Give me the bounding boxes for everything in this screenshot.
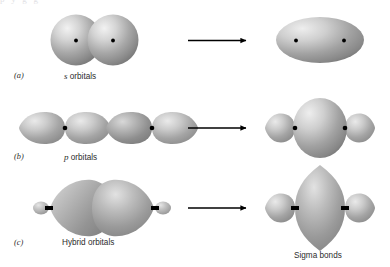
p-lobe-inner-left xyxy=(65,112,111,144)
nucleus-dot xyxy=(291,206,299,210)
caption-hybrid-orbitals-text: Hybrid orbitals xyxy=(62,238,114,247)
hybrid-merged-sigma-lens xyxy=(295,165,345,251)
nucleus-dot xyxy=(111,39,115,43)
merged-sigma-ellipse xyxy=(276,17,364,63)
hybrid-orbital-pair-left xyxy=(33,180,171,236)
row-b-graphics xyxy=(19,98,375,158)
row-label-c: (c) xyxy=(14,238,23,247)
nucleus-dot xyxy=(342,39,346,43)
p-merged-sigma-ellipse xyxy=(293,98,347,158)
row-label-a: (a) xyxy=(14,71,24,80)
caption-s-orbitals-rest: orbitals xyxy=(68,72,97,81)
nucleus-dot xyxy=(150,126,155,131)
nucleus-dot xyxy=(293,126,298,131)
nucleus-dot xyxy=(45,206,53,210)
s-orbital-pair-left xyxy=(51,15,139,66)
p-lobe-inner-right xyxy=(106,112,152,144)
hybrid-small-lobe-right xyxy=(345,194,375,223)
row-a-graphics xyxy=(51,15,365,66)
p-small-lobe-left xyxy=(265,114,295,143)
caption-p-orbitals-rest: orbitals xyxy=(69,153,98,162)
orbital-graphics-canvas xyxy=(0,0,390,267)
p-sigma-bond-right xyxy=(265,98,375,158)
hybrid-lobe-right xyxy=(92,180,154,236)
nucleus-dot xyxy=(294,39,298,43)
p-lobe-outer-left xyxy=(19,112,65,144)
nucleus-dot xyxy=(151,206,159,210)
nucleus-dot xyxy=(63,126,68,131)
hybrid-small-lobe-left xyxy=(265,194,295,223)
p-small-lobe-right xyxy=(345,114,375,143)
hybrid-sigma-bond-right xyxy=(265,165,375,251)
p-orbital-chain-left xyxy=(19,112,198,144)
label-sigma-bonds: Sigma bonds xyxy=(294,251,342,260)
caption-s-orbitals: s orbitals xyxy=(64,71,96,81)
nucleus-dot xyxy=(74,39,78,43)
orbital-overlap-figure: p y g g xyxy=(0,0,390,267)
caption-hybrid-orbitals: Hybrid orbitals xyxy=(62,238,114,247)
row-label-b: (b) xyxy=(14,152,24,161)
nucleus-dot xyxy=(341,206,349,210)
caption-p-orbitals: p orbitals xyxy=(64,152,97,162)
nucleus-dot xyxy=(343,126,348,131)
s-sigma-bond-right xyxy=(276,17,364,63)
